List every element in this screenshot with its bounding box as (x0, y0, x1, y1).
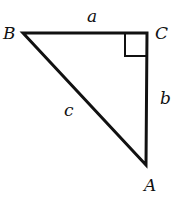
triangle (23, 33, 147, 165)
triangle-diagram: B C A a b c (0, 0, 185, 199)
vertex-label-b: B (2, 23, 16, 43)
side-label-b: b (160, 88, 171, 108)
side-label-c: c (64, 100, 74, 120)
vertex-label-a: A (142, 175, 156, 195)
side-label-a: a (87, 6, 97, 26)
vertex-label-c: C (155, 23, 168, 43)
right-angle-marker (125, 33, 146, 56)
